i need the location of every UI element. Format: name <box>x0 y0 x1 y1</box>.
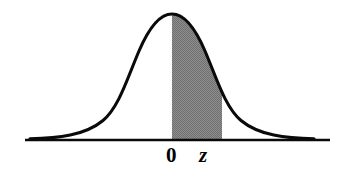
x-axis-tick-label-z: z <box>199 145 207 166</box>
normal-curve-figure: 0 z <box>0 0 346 182</box>
x-axis-tick-label-zero: 0 <box>166 145 177 166</box>
